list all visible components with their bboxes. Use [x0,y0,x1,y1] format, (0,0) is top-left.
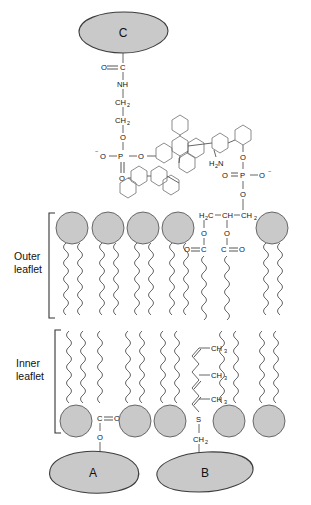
sugar-ring-3 [172,115,188,135]
prenyl-ch2-sub: 2 [205,439,208,445]
glycerol-h2c-h: H [199,211,204,220]
acyl-anchor-carbonyl-carbon: C [97,414,103,423]
outer-tail-5a [264,243,269,315]
prenyl-ch2: CH [193,435,204,444]
amide-nh: NH [117,80,128,89]
sugar-ring-11 [235,125,251,145]
bond-ring-amine [214,150,216,157]
outer-leaflet-label-line1: Outer [14,250,41,262]
outer-tail-2b [114,243,119,315]
sugar-ring-5 [179,153,195,173]
inner-tail-3b [175,331,180,403]
glycerol-ch2: CH [241,211,252,220]
outer-head-2 [92,212,124,244]
outer-tail-1b [78,243,83,315]
glycerol-h2c-c: C [208,211,214,220]
inner-leaflet-label-line1: Inner [16,357,40,369]
gpi-phosphate-bridge-oxygen: O [138,152,144,161]
inner-tail-5a [260,331,265,403]
ethanolamine-ch2-b-sub: 2 [127,120,130,126]
prenyl-methyl-2: CH [211,371,222,380]
ethanolamine-ch2-a-sub: 2 [127,102,130,108]
phosphate-left-oxygen: O [100,152,106,161]
outer-leaflet-label-group: Outer leaflet [14,213,55,318]
sugar-ring-1 [156,143,172,163]
gpi-acyl-tail-2 [225,256,230,320]
outer-head-4 [162,212,194,244]
protein-b-group: B [157,452,253,492]
inner-tail-4a [220,331,225,403]
gpi-acyl-tail-1 [202,256,207,320]
outer-leaflet-label-line2: leaflet [14,263,42,275]
membrane-anchor-diagram: C O C NH CH 2 CH 2 O − O P O O [0,0,311,505]
outer-tail-3b [149,243,154,315]
inner-tail-5b [274,331,279,403]
gpi-phosphorus: P [118,152,123,161]
glycerol-ch: CH [222,211,233,220]
phosphate-left-charge: − [95,148,98,154]
glycerol-ch2-sub: 2 [254,215,257,221]
protein-b-label: B [201,466,209,480]
sugar-ring-6 [151,166,167,186]
inositol-phosphorus: P [240,171,245,180]
inner-tail-1b [81,331,86,403]
protein-c-group: C [79,12,168,53]
glycosidic-bond-1 [188,143,212,146]
prenyl-chain [192,348,199,412]
inner-leaflet-lipids: C O O CH 3 CH 3 CH 3 S [60,331,285,453]
outer-head-1 [56,212,88,244]
acyl-anchor-tail [98,331,103,403]
inositol-phosphate-double-oxygen: O [222,171,228,180]
prenyl-anchor-group: CH 3 CH 3 CH 3 S CH 2 [192,344,227,453]
inner-head-4 [213,405,245,437]
prenyl-methyl-1-sub: 3 [224,348,227,354]
sn2-carbonyl-carbon: C [221,245,227,254]
amine-group: H 2 N [209,150,223,169]
figure-canvas: C O C NH CH 2 CH 2 O − O P O O [0,0,311,505]
inositol-phosphate-upper-oxygen: O [240,153,246,162]
inner-head-2 [119,405,151,437]
inositol-phosphate-right-oxygen: O [259,171,265,180]
inner-tail-2b [140,331,145,403]
prenyl-methyl-3-sub: 3 [224,399,227,405]
amine-nitrogen: N [218,159,223,168]
sn1-carbonyl-carbon: C [201,245,207,254]
inner-leaflet-label-line2: leaflet [16,370,44,382]
carbonyl-carbon-top: C [120,63,126,72]
outer-tail-3a [135,243,140,315]
inner-head-3 [154,405,186,437]
outer-tail-2a [100,243,105,315]
sugar-ring-8 [120,178,136,198]
protein-a-group: A [50,451,139,493]
inner-tail-4b [234,331,239,403]
outer-tail-4a [170,243,175,315]
protein-a-label: A [89,466,97,480]
sugar-ring-2 [172,136,188,156]
gpi-linker-group: O C NH CH 2 CH 2 O [101,53,130,150]
outer-head-3 [127,212,159,244]
glycosidic-bond-5 [167,176,179,183]
outer-leaflet-bracket [49,213,55,318]
glycerol-ester-oxygen-left: O [201,229,207,238]
inositol-phosphate-group: O O P O − O [222,145,271,210]
ethanolamine-ester-oxygen: O [120,133,126,142]
glycerol-backbone-group: H 2 C CH CH 2 O O O C C O [184,211,257,254]
inner-tail-3a [161,331,166,403]
outer-tail-5b [278,243,283,315]
inner-head-1 [60,405,92,437]
glycosidic-bond-2 [228,140,235,143]
amine-hydrogen: H [209,159,214,168]
inner-leaflet-label-group: Inner leaflet [16,330,61,433]
outer-tail-1a [64,243,69,315]
glycerol-ester-oxygen-right: O [224,229,230,238]
prenyl-sulfur: S [196,415,201,424]
ethanolamine-ch2-a: CH [115,98,126,107]
ethanolamine-ch2-b: CH [115,116,126,125]
inner-tail-2a [126,331,131,403]
acyl-anchor-ester-oxygen: O [97,433,103,442]
sn2-carbonyl-oxygen: O [239,245,245,254]
glycosidic-bond-8 [179,156,180,163]
protein-c-label: C [119,26,128,40]
carbonyl-oxygen-top: O [101,63,107,72]
inositol-phosphate-lower-oxygen: O [240,190,246,199]
